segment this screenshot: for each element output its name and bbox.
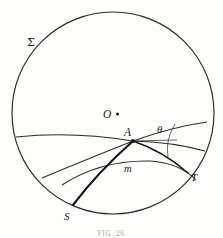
label-center-o: O (103, 108, 112, 120)
center-dot (116, 113, 119, 116)
figure-container: Σ O A θ m S T FIG. 26 (0, 0, 223, 238)
boundary-circle (12, 12, 214, 214)
geodesic-lower-right (133, 141, 205, 151)
label-vertex-a: A (123, 126, 132, 138)
geodesic-upper-left (16, 135, 133, 141)
label-point-s: S (64, 210, 70, 222)
figure-caption: FIG. 26 (98, 229, 125, 238)
geodesic-lower-left (42, 141, 133, 178)
label-curve-m: m (124, 163, 132, 174)
geometry-diagram: Σ O A θ m S T FIG. 26 (0, 0, 223, 238)
geodesic-upper-right (133, 122, 207, 141)
angle-ray (133, 140, 177, 141)
label-point-t: T (191, 171, 198, 183)
vertex-dot-a (131, 139, 135, 143)
label-theta: θ (157, 124, 162, 135)
label-sigma: Σ (27, 36, 35, 49)
